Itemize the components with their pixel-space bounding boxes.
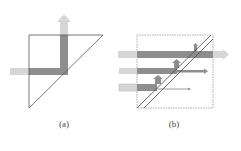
arrow-up-icon [57, 14, 71, 22]
panel-b [118, 35, 229, 108]
arrow-up-icon [193, 43, 198, 46]
panel-b-beam-3-in [119, 84, 137, 91]
diagram-canvas [0, 0, 241, 151]
panel-b-label: (b) [154, 119, 194, 129]
panel-a-outgoing-beam [60, 22, 68, 35]
panel-b-beam-2-dark [137, 68, 177, 74]
arrow-right-icon [204, 69, 208, 75]
arrow-right-icon [223, 49, 229, 60]
arrow-up-icon [153, 75, 163, 79]
panel-a-incoming-beam [10, 68, 30, 75]
panel-b-beam-2-in [119, 68, 137, 74]
panel-a-label: (a) [44, 119, 84, 129]
panel-b-beam-1-dark [137, 51, 213, 58]
panel-a [10, 14, 103, 108]
arrow-up-icon [172, 59, 181, 63]
panel-b-beam-1-in [118, 51, 137, 58]
arrow-right-icon [188, 88, 191, 91]
panel-b-beam-3-reflect [155, 79, 161, 84]
panel-b-beam-1-out [213, 51, 223, 58]
panel-a-vertical-beam [60, 35, 68, 75]
panel-b-beam-3-dark [137, 84, 157, 91]
